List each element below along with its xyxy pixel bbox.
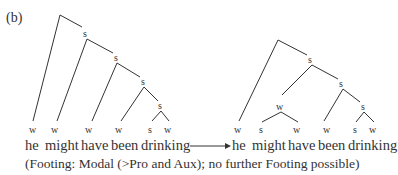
word: have xyxy=(81,137,108,153)
leaf-w: w xyxy=(51,124,59,135)
leaf-w: w xyxy=(85,124,93,135)
caption: (Footing: Modal (>Pro and Aux); no furth… xyxy=(25,156,360,171)
word: might xyxy=(252,137,286,153)
word: he xyxy=(25,137,39,153)
leaf-w: w xyxy=(323,124,331,135)
node-s: s xyxy=(158,100,162,111)
leaf-w: w xyxy=(164,124,172,135)
node-s: s xyxy=(308,54,312,65)
leaf-w: w xyxy=(293,124,301,135)
word: been xyxy=(111,137,139,153)
transform-arrow xyxy=(190,143,231,149)
word: drinking xyxy=(348,137,397,153)
metrical-tree-diagram: (b) s s s s w w w w s w he might have be… xyxy=(0,0,398,175)
leaf-w: w xyxy=(115,124,123,135)
left-tree: s s s s w w w w s w he might have been d… xyxy=(25,15,190,153)
word: been xyxy=(318,137,346,153)
leaf-w: w xyxy=(29,124,37,135)
figure-label: (b) xyxy=(6,10,23,26)
leaf-s: s xyxy=(148,124,152,135)
node-s: s xyxy=(141,76,145,87)
node-s: s xyxy=(361,101,365,112)
node-s: s xyxy=(114,52,118,63)
leaf-s: s xyxy=(353,124,357,135)
word: might xyxy=(45,137,79,153)
word: have xyxy=(288,137,315,153)
word: drinking xyxy=(141,137,190,153)
leaf-s: s xyxy=(259,124,263,135)
node-s: s xyxy=(339,78,343,89)
leaf-w: w xyxy=(234,124,242,135)
right-tree: s s w s w s w w s w he might have been d… xyxy=(232,40,397,153)
word: he xyxy=(232,137,246,153)
node-s: s xyxy=(83,28,87,39)
leaf-w: w xyxy=(369,124,377,135)
node-w: w xyxy=(276,101,284,112)
